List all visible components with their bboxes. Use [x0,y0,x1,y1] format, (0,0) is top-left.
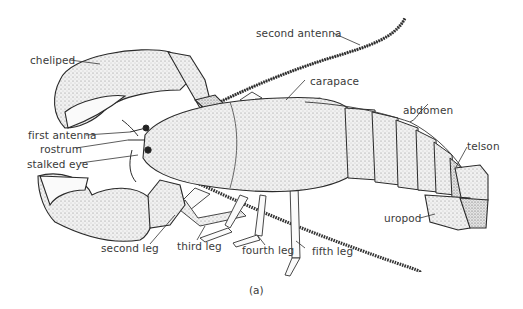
label-second-leg: second leg [101,242,159,254]
label-rostrum: rostrum [40,143,82,155]
label-telson: telson [467,140,500,152]
label-carapace: carapace [310,75,359,87]
label-stalked-eye: stalked eye [27,158,88,170]
label-first-antenna: first antenna [28,129,97,141]
label-fifth-leg: fifth leg [312,245,353,257]
label-cheliped: cheliped [30,54,75,66]
cheliped-lower [38,174,185,241]
label-uropod: uropod [384,212,422,224]
lobster-anatomy-figure: cheliped second antenna carapace abdomen… [0,0,523,309]
label-abdomen: abdomen [403,104,453,116]
figure-caption: (a) [249,284,264,296]
carapace [143,98,352,192]
label-second-antenna: second antenna [256,27,342,39]
label-third-leg: third leg [177,240,222,252]
abdomen [345,108,462,200]
label-fourth-leg: fourth leg [242,244,294,256]
